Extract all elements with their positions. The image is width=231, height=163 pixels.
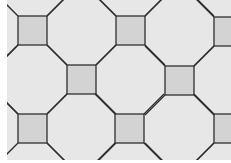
square-tile	[67, 65, 96, 94]
square-tile	[115, 114, 144, 143]
square-tile	[214, 114, 231, 143]
octagon-square-tiling	[0, 0, 231, 163]
square-tile	[214, 17, 231, 46]
square-tile	[165, 66, 194, 95]
square-tile	[116, 16, 145, 45]
square-tile	[18, 114, 47, 143]
square-tile	[18, 16, 47, 45]
